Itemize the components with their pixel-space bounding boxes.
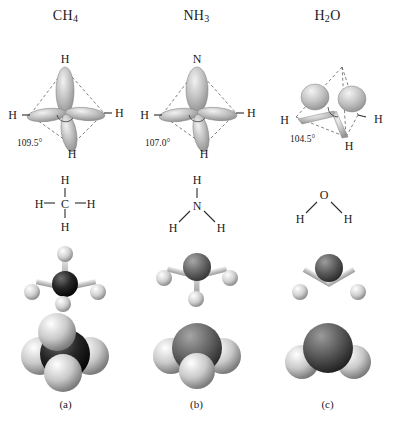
orbital-label-h-bottom: H [200,147,209,161]
orbital-label-h-right: H [374,112,383,126]
molecule-column-nh3: NH3 N H H [131,0,262,421]
orbital-label-h-left: H [8,108,17,122]
molecular-geometry-figure: CH4 [0,0,393,421]
bond-angle-ch4: 109.5° [17,138,42,148]
space-filling-ch4 [0,316,131,390]
formula-nh3-element: NH [183,8,204,23]
bond-angle-nh3: 107.0° [145,138,170,148]
lewis-label-h-right: H [344,212,353,226]
lewis-label-h-left: H [169,221,178,235]
sp3-hybrid-lobes [158,67,237,153]
orbital-label-h-left: H [280,113,289,127]
orbital-label-h-bottom: H [68,147,77,161]
orbital-label-h-top: H [61,52,70,66]
lewis-label-c-center: C [61,197,69,211]
space-filling-nh3 [131,316,262,390]
sf-oxygen [303,323,353,373]
lewis-label-o-center: O [320,188,329,202]
bond-angle-h2o: 104.5° [290,134,315,144]
caption-a: (a) [0,398,131,410]
orbital-label-h-bottom: H [345,139,354,153]
lewis-label-h-right: H [217,221,226,235]
orbital-model-h2o: H H H 104.5° [262,45,393,163]
formula-h2o-tail: O [330,8,340,23]
lewis-bonds-h2o [306,202,342,213]
orbital-label-h-right: H [115,106,124,120]
formula-ch4-element: CH [53,8,73,23]
orbital-model-ch4: H H H H 109.5° [0,45,131,163]
ball-and-stick-nh3 [131,240,262,314]
orbital-label-h-left: H [140,108,149,122]
ball-and-stick-h2o [262,240,393,314]
lewis-label-h-left: H [296,212,305,226]
molecule-column-ch4: CH4 [0,0,131,421]
lewis-label-h-right: H [87,197,96,211]
orbital-model-nh3: N H H H 107.0° [131,45,262,163]
lewis-label-h-left: H [35,197,44,211]
lewis-structure-nh3: H N H H [131,165,262,237]
molecule-column-h2o: H2O [262,0,393,421]
sf-hydrogen-bottom [44,354,82,392]
atoms-hydrogen-h2o [292,284,366,300]
lewis-label-h-bottom: H [61,220,70,234]
space-filling-h2o [262,316,393,390]
lewis-label-n-center: N [193,199,202,213]
orbital-bond-lines-h2o [358,115,366,117]
sf-hydrogen-front [179,353,215,389]
formula-h2o-element: H [314,8,324,23]
orbital-label-h-right: H [247,106,256,120]
ball-and-stick-ch4 [0,240,131,314]
lewis-structure-ch4: H C H H H [0,165,131,237]
atom-carbon [52,271,78,297]
sf-hydrogen-top [38,313,76,351]
formula-ch4-subscript: 4 [73,13,78,24]
caption-c: (c) [262,398,393,410]
formula-ch4: CH4 [0,8,131,24]
formula-h2o: H2O [262,8,393,24]
lone-pair-lobes [301,84,366,112]
lewis-label-h-top: H [193,173,202,187]
atom-nitrogen [183,253,211,281]
formula-nh3-subscript: 3 [204,13,209,24]
caption-b: (b) [131,398,262,410]
formula-nh3: NH3 [131,8,262,24]
lewis-label-h-top: H [61,173,70,187]
orbital-label-n-top: N [193,52,202,66]
lewis-structure-h2o: O H H [262,165,393,237]
atom-oxygen [315,254,343,282]
